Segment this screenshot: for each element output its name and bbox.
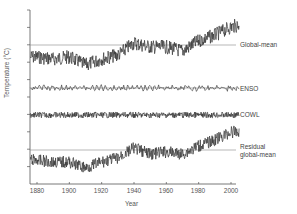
- cowl-series: [31, 112, 240, 118]
- y-axis-label: Temperature (°C): [3, 48, 10, 98]
- legend-enso: ENSO: [240, 85, 258, 93]
- chart-plot-area: [0, 0, 297, 214]
- x-tick-label: 1900: [62, 187, 76, 194]
- legend-cowl: COWL: [240, 111, 260, 119]
- x-axis-label: Year: [125, 200, 138, 207]
- x-tick-label: 1940: [127, 187, 141, 194]
- legend-residual-line1: Residual: [240, 143, 265, 151]
- global-mean-series: [31, 19, 240, 70]
- x-tick-label: 1980: [191, 187, 205, 194]
- legend-global-mean: Global-mean: [240, 41, 277, 49]
- x-tick-label: 1880: [30, 187, 44, 194]
- x-tick-label: 2000: [224, 187, 238, 194]
- x-tick-label: 1920: [94, 187, 108, 194]
- y-ticks: [27, 10, 30, 167]
- residual-global-mean-series: [31, 126, 240, 172]
- legend-residual-line2: global-mean: [240, 151, 276, 159]
- x-tick-label: 1960: [159, 187, 173, 194]
